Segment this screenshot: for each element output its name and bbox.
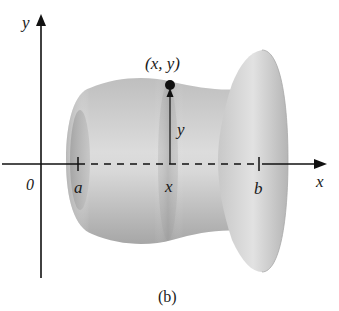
solid-of-revolution-figure: y x 0 a x b (x, y) y (b) [0,0,339,311]
tick-a-label: a [74,178,83,197]
y-axis-label: y [20,13,30,32]
point-label: (x, y) [145,54,180,73]
point-marker [165,80,175,90]
y-axis [36,14,46,278]
tick-b-label: b [254,179,263,198]
tick-x-label: x [164,177,173,196]
x-axis-arrow-icon [314,159,327,169]
figure-caption: (b) [158,288,177,306]
y-axis-arrow-icon [36,14,46,26]
solid-flared-end [218,50,288,272]
origin-label: 0 [26,176,34,193]
radius-label: y [175,120,185,139]
x-axis-label: x [315,172,324,191]
